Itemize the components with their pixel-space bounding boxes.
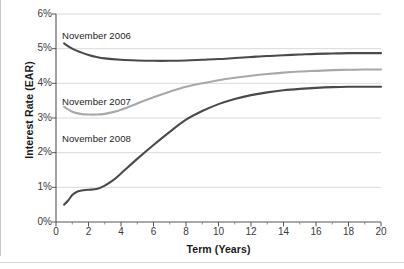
series-lines — [64, 43, 381, 204]
series-label-november-2008: November 2008 — [62, 133, 131, 144]
tick-marks — [52, 14, 381, 227]
chart-figure: Interest Rate (EAR) Term (Years) 6% 5% 4… — [0, 0, 404, 269]
chart-canvas — [0, 0, 404, 269]
series-label-november-2006: November 2006 — [62, 30, 131, 41]
series-line-november-2007 — [64, 69, 381, 114]
plot-area: Interest Rate (EAR) Term (Years) 6% 5% 4… — [0, 0, 404, 269]
series-label-november-2007: November 2007 — [62, 96, 131, 107]
series-line-november-2006 — [64, 43, 381, 60]
